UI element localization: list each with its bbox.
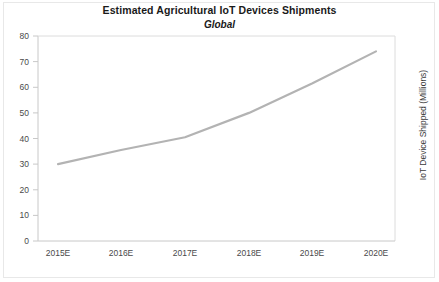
x-tick-label: 2020E bbox=[364, 248, 389, 258]
plot-axes bbox=[38, 36, 395, 241]
y-axis-title: IoT Device Shipped (Millions) bbox=[411, 0, 435, 250]
y-tick-label: 10 bbox=[20, 210, 30, 220]
y-tick-label: 30 bbox=[20, 159, 30, 169]
y-axis-ticks bbox=[33, 36, 38, 241]
y-axis-labels: 0 10 20 30 40 50 60 70 80 bbox=[20, 31, 30, 246]
y-tick-label: 60 bbox=[20, 82, 30, 92]
y-tick-label: 20 bbox=[20, 185, 30, 195]
x-axis-labels: 2015E 2016E 2017E 2018E 2019E 2020E bbox=[46, 248, 389, 258]
x-tick-label: 2016E bbox=[109, 248, 134, 258]
y-tick-label: 50 bbox=[20, 108, 30, 118]
chart-container: Estimated Agricultural IoT Devices Shipm… bbox=[0, 0, 439, 282]
x-tick-label: 2015E bbox=[46, 248, 71, 258]
data-series-line bbox=[58, 51, 376, 164]
x-tick-label: 2018E bbox=[237, 248, 262, 258]
line-chart-plot: 0 10 20 30 40 50 60 70 80 2015E 2016E 20… bbox=[0, 0, 439, 282]
y-tick-label: 0 bbox=[24, 236, 29, 246]
y-tick-label: 40 bbox=[20, 134, 30, 144]
y-tick-label: 70 bbox=[20, 57, 30, 67]
y-axis-title-text: IoT Device Shipped (Millions) bbox=[418, 70, 428, 180]
y-tick-label: 80 bbox=[20, 31, 30, 41]
x-tick-label: 2017E bbox=[173, 248, 198, 258]
x-tick-label: 2019E bbox=[300, 248, 325, 258]
